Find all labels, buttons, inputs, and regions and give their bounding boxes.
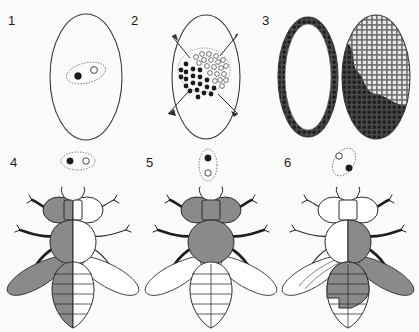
panel-label-2: 2 — [131, 14, 138, 27]
zygote-cell — [64, 58, 108, 87]
abdomen — [190, 262, 232, 328]
panel-egg-two-nuclei — [32, 10, 140, 145]
panel-fly-anterior-posterior-mosaic — [140, 186, 282, 331]
nucleus-open-icon — [83, 158, 89, 164]
cell-membrane — [61, 152, 95, 170]
nucleus-dark-icon — [75, 73, 82, 80]
panel-label-5: 5 — [146, 156, 153, 169]
cell-membrane — [328, 144, 361, 180]
thorax — [188, 220, 234, 264]
abdomen — [327, 262, 369, 328]
arrow-lower-right — [218, 94, 238, 117]
panel-cell-5 — [192, 147, 224, 183]
head — [318, 197, 378, 223]
cell-membrane — [64, 58, 108, 87]
nucleus-open-icon — [91, 67, 98, 74]
egg-surface-mosaic — [340, 10, 415, 145]
egg-outline — [50, 14, 122, 140]
nuclei-cluster — [178, 48, 230, 99]
nucleus-dark-icon — [205, 155, 211, 161]
panel-fly-bilateral-gynandromorph — [2, 186, 144, 331]
head — [43, 197, 103, 223]
nucleus-dark-icon — [346, 165, 352, 171]
panel-label-3: 3 — [262, 14, 269, 27]
panel-fly-irregular-mosaic — [277, 186, 419, 331]
thorax — [50, 220, 96, 264]
abdomen — [52, 262, 94, 328]
panel-cell-6 — [325, 145, 363, 179]
nucleus-open-icon — [205, 170, 211, 176]
panel-label-4: 4 — [10, 156, 17, 169]
nucleus-dark-icon — [67, 158, 73, 164]
panel-label-6: 6 — [284, 156, 291, 169]
panel-cell-4 — [52, 148, 104, 174]
panel-cleavage-nuclei-migrating — [152, 10, 260, 145]
head — [181, 197, 241, 223]
figure-gynandromorph-development: 1 2 — [0, 0, 419, 332]
thorax — [325, 220, 371, 264]
nucleus-open-icon — [336, 153, 342, 159]
egg-ring-blastoderm — [272, 10, 347, 145]
panel-blastoderm — [272, 10, 417, 145]
panel-label-1: 1 — [8, 14, 15, 27]
